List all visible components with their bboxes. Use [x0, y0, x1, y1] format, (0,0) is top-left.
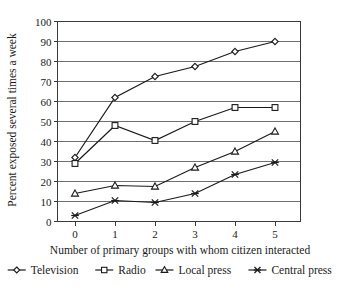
legend-label: Central press [271, 264, 332, 277]
data-series-group [71, 38, 279, 218]
series-television [72, 38, 278, 160]
legend-item-central-press[interactable]: Central press [248, 264, 332, 277]
y-axis-title: Percent exposed several times a week [6, 33, 19, 207]
marker-square [102, 267, 107, 272]
marker-diamond [14, 267, 20, 273]
marker-diamond [272, 38, 278, 44]
marker-diamond [152, 73, 158, 79]
marker-x [271, 159, 279, 165]
marker-square [232, 105, 238, 111]
series-central-press [71, 159, 279, 218]
legend-item-radio[interactable]: Radio [95, 264, 146, 276]
y-tick-label: 70 [41, 76, 53, 88]
marker-diamond [232, 48, 238, 54]
y-tick-label: 0 [46, 216, 52, 228]
y-gridlines [58, 42, 301, 202]
marker-diamond [192, 63, 198, 69]
y-tick-label: 40 [41, 136, 53, 148]
marker-x [151, 199, 159, 205]
y-tick-label: 100 [35, 16, 52, 28]
x-tick-label: 5 [272, 228, 278, 240]
x-tick-marks [75, 222, 275, 226]
marker-diamond [112, 94, 118, 100]
marker-square [112, 123, 118, 129]
marker-x [191, 190, 199, 196]
legend-label: Radio [118, 264, 146, 276]
series-radio [72, 105, 278, 167]
y-tick-label: 90 [41, 36, 53, 48]
series-line [75, 108, 275, 164]
y-tick-label: 30 [41, 156, 53, 168]
x-tick-labels: 012345 [72, 228, 278, 240]
y-tick-label: 60 [41, 96, 53, 108]
marker-square [192, 119, 198, 125]
marker-x [71, 212, 79, 218]
legend-label: Television [31, 264, 79, 276]
legend-item-local-press[interactable]: Local press [155, 264, 231, 277]
marker-diamond [72, 154, 78, 160]
y-tick-label: 80 [41, 56, 53, 68]
chart-figure: 0102030405060708090100 012345 Percent ex… [0, 0, 349, 296]
marker-triangle [232, 148, 239, 154]
series-line [75, 132, 275, 194]
x-tick-label: 4 [232, 228, 238, 240]
y-tick-label: 10 [41, 196, 53, 208]
x-tick-label: 0 [72, 228, 78, 240]
marker-square [272, 105, 278, 111]
marker-x [111, 197, 119, 203]
series-line [75, 42, 275, 158]
marker-x [254, 267, 261, 273]
legend-label: Local press [178, 264, 231, 277]
x-tick-label: 2 [152, 228, 158, 240]
marker-square [152, 138, 158, 144]
y-tick-marks [54, 22, 58, 222]
y-tick-label: 20 [41, 176, 53, 188]
marker-triangle [272, 128, 279, 134]
y-tick-label: 50 [41, 116, 53, 128]
legend-item-television[interactable]: Television [8, 264, 79, 276]
line-chart-canvas: 0102030405060708090100 012345 Percent ex… [0, 0, 349, 296]
x-tick-label: 3 [192, 228, 198, 240]
x-tick-label: 1 [112, 228, 118, 240]
marker-square [72, 161, 78, 167]
y-tick-labels: 0102030405060708090100 [35, 16, 52, 228]
marker-x [231, 171, 239, 177]
x-axis-title: Number of primary groups with whom citiz… [50, 244, 311, 257]
chart-legend: TelevisionRadioLocal pressCentral press [8, 264, 333, 277]
series-line [75, 163, 275, 216]
